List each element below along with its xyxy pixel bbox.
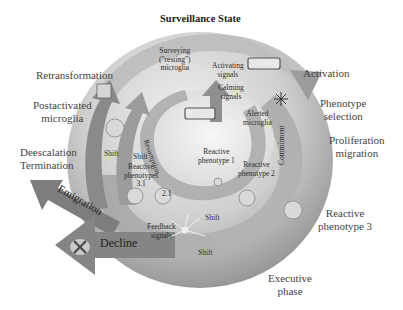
label-deescalation: Deescalation — [20, 146, 77, 159]
label-termination: Termination — [20, 159, 77, 172]
label-executive-phase: Executive phase — [268, 272, 312, 297]
label-reactive1-line2: phenotype 1 — [198, 157, 235, 166]
label-surveying-line3: microglia — [159, 64, 191, 73]
label-retransformation: Retransformation — [36, 69, 113, 82]
label-reactive-phenotype-1: Reactive phenotype 1 — [198, 148, 235, 165]
calming-signal-box — [185, 108, 215, 119]
label-shift-a: Shift — [104, 150, 119, 159]
removed-cell-x — [70, 239, 90, 255]
label-activating-line2: signals — [212, 71, 244, 80]
label-proliferation-line1: Proliferation — [329, 134, 385, 147]
label-calming-line2: signals — [218, 93, 244, 102]
label-reactive3-line1: Reactive — [318, 207, 372, 220]
label-phenotype-selection: Phenotype selection — [320, 97, 366, 122]
label-reactive-2-1: 2.1 — [162, 190, 171, 199]
label-deescalation-termination: Deescalation Termination — [20, 146, 77, 171]
label-decline: Decline — [100, 237, 137, 251]
label-commitment: Commitment — [277, 125, 286, 165]
label-activation: Activation — [303, 67, 349, 80]
label-activating-signals: Activating signals — [212, 62, 244, 79]
label-feedback-signals: Feedback signals — [147, 223, 176, 240]
label-alerted-microglia: Alerted microglia — [243, 110, 272, 127]
label-reactive31-line3: 3.1 — [124, 180, 158, 189]
label-shift-d: Shift — [198, 249, 213, 258]
label-feedback-line2: signals — [147, 232, 176, 241]
label-postactivated-line2: microglia — [33, 112, 92, 125]
label-calming-signals: Calming signals — [218, 84, 244, 101]
activating-signal-box — [248, 58, 280, 69]
label-phenotype-line1: Phenotype — [320, 97, 366, 110]
label-reactive3-line2: phenotype 3 — [318, 220, 372, 233]
alerted-microglia-star — [274, 92, 288, 106]
label-shift-c: Shift — [205, 214, 220, 223]
label-executive-line2: phase — [268, 285, 312, 298]
label-reactive-phenotype-2: Reactive phenotype 2 — [238, 161, 275, 178]
label-alerted-line2: microglia — [243, 119, 272, 128]
label-executive-line1: Executive — [268, 272, 312, 285]
retransformation-box — [97, 84, 111, 98]
diagram-title: Surveillance State — [160, 13, 241, 25]
label-proliferation-migration: Proliferation migration — [329, 134, 385, 159]
label-reactive2-line2: phenotype 2 — [238, 170, 275, 179]
label-reactive-phenotype-3: Reactive phenotype 3 — [318, 207, 372, 232]
label-postactivated-line1: Postactivated — [33, 99, 92, 112]
label-surveying-microglia: Surveying ("resting") microglia — [159, 47, 191, 73]
label-proliferation-line2: migration — [329, 147, 385, 160]
label-postactivated-microglia: Postactivated microglia — [33, 99, 92, 124]
label-phenotype-line2: selection — [320, 110, 366, 123]
